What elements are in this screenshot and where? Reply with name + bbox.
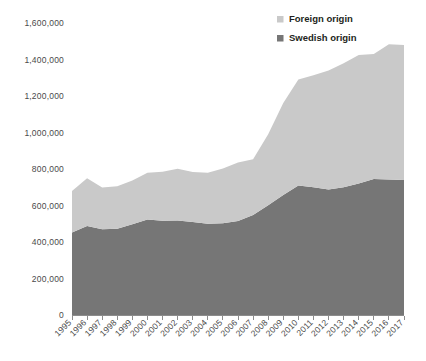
- area-series-group: [72, 44, 404, 315]
- chart-canvas: 1,600,0001,400,0001,200,0001,000,000800,…: [0, 0, 426, 361]
- y-axis-tick-label: 0: [59, 310, 64, 320]
- y-axis-tick-label: 800,000: [32, 164, 64, 174]
- y-axis-tick-label: 600,000: [32, 201, 64, 211]
- x-axis-labels: 1995199619971998199920002001200220032004…: [52, 316, 405, 338]
- y-axis-tick-label: 1,400,000: [24, 55, 64, 65]
- y-axis-labels: 1,600,0001,400,0001,200,0001,000,000800,…: [24, 18, 64, 320]
- x-axis-tick-label: 2017: [384, 317, 405, 338]
- legend-swatch-swedish-origin: [277, 35, 284, 42]
- stacked-area-chart: 1,600,0001,400,0001,200,0001,000,000800,…: [0, 0, 426, 361]
- legend-swatch-foreign-origin: [277, 16, 284, 23]
- chart-legend: Foreign originSwedish origin: [277, 13, 357, 43]
- legend-label-swedish-origin: Swedish origin: [289, 32, 357, 43]
- y-axis-tick-label: 1,000,000: [24, 128, 64, 138]
- y-axis-tick-label: 200,000: [32, 274, 64, 284]
- y-axis-tick-label: 1,600,000: [24, 18, 64, 28]
- y-axis-tick-label: 400,000: [32, 237, 64, 247]
- legend-label-foreign-origin: Foreign origin: [289, 13, 353, 24]
- y-axis-tick-label: 1,200,000: [24, 91, 64, 101]
